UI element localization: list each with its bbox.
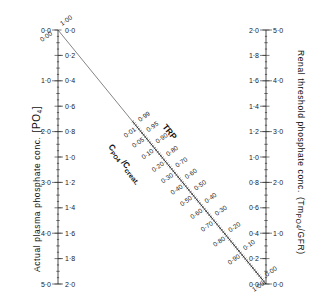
ratio-label: 0·30 [160, 171, 175, 184]
trp-label: 0·99 [136, 110, 151, 123]
right-axis-title-text: Renal threshold phosphate conc. [296, 50, 306, 193]
left-axis-title-unit: [PO [31, 113, 42, 132]
trp-label: 1·00 [59, 13, 74, 26]
right-inner-tick-label: 3·0 [273, 128, 283, 135]
left-inner-tick-label: 1·0 [65, 154, 75, 161]
left-inner-labels: 0·00·20·40·60·81·01·21·41·61·82·0 [58, 27, 75, 288]
trp-label: 0·10 [241, 238, 256, 251]
left-outer-tick-label: 1·0 [41, 77, 51, 84]
right-outer-tick-label: 1·2 [249, 128, 259, 135]
trp-label: 0·50 [193, 178, 208, 191]
left-inner-tick-label: 1·6 [65, 230, 75, 237]
right-axis-title: Renal threshold phosphate conc.(TmPO4/GF… [295, 50, 306, 255]
left-inner-tick-label: 1·4 [65, 204, 75, 211]
right-outer-tick-label: 1·0 [249, 154, 259, 161]
left-inner-tick-label: 1·2 [65, 179, 75, 186]
ratio-title: CPO4/Ccreat. [105, 142, 144, 186]
right-outer-tick-label: 1·4 [249, 103, 259, 110]
left-axis-title: Actual plasma phosphate conc.[PO4] [31, 106, 43, 272]
right-outer-tick-label: 0·8 [249, 179, 259, 186]
left-inner-tick-label: 2·0 [65, 281, 75, 288]
trp-label: 0·20 [227, 220, 242, 233]
right-outer-tick-label: 0·2 [249, 255, 259, 262]
right-outer-tick-label: 0·6 [249, 204, 259, 211]
ratio-label: 0·20 [150, 160, 165, 173]
left-inner-tick-label: 1·8 [65, 255, 75, 262]
right-inner-tick-label: 1·0 [273, 230, 283, 237]
trp-label: 0·60 [183, 167, 198, 180]
trp-label: 0·00 [263, 264, 278, 277]
ratio-label: 0·80 [212, 235, 227, 248]
ratio-label: 0·40 [169, 183, 184, 196]
right-outer-tick-label: 2·0 [249, 27, 259, 34]
ratio-title-sub2: creat. [123, 167, 140, 186]
left-inner-tick-label: 0·6 [65, 103, 75, 110]
left-inner-tick-label: 0·4 [65, 77, 75, 84]
left-inner-tick-label: 0·8 [65, 128, 75, 135]
ratio-label: 0·01 [122, 125, 137, 138]
trp-label: 0·30 [213, 204, 228, 217]
right-outer-labels: 2·01·81·61·41·21·00·80·60·40·20·0 [249, 27, 266, 288]
ratio-label: 0·70 [199, 219, 214, 232]
left-outer-tick-label: 5·0 [41, 281, 51, 288]
ratio-label: 0·50 [178, 194, 193, 207]
ratio-label: 0·90 [226, 252, 241, 265]
ratio-label: 0·60 [189, 207, 204, 220]
nomogram: 0·01·02·03·04·05·0 0·00·20·40·60·81·01·2… [0, 0, 322, 302]
ratio-labels: 0·000·010·050·100·200·300·400·500·600·70… [39, 29, 266, 292]
left-outer-tick-label: 4·0 [41, 230, 51, 237]
right-inner-tick-label: 5·0 [273, 27, 283, 34]
left-axis: 0·01·02·03·04·05·0 0·00·20·40·60·81·01·2… [41, 27, 75, 288]
right-outer-tick-label: 1·8 [249, 52, 259, 59]
ratio-title-sub: PO4 [109, 150, 122, 164]
left-outer-tick-label: 3·0 [41, 179, 51, 186]
right-axis-title-close: /GFR) [296, 229, 306, 255]
right-axis: 2·01·81·61·41·21·00·80·60·40·20·0 5·04·0… [249, 27, 283, 288]
right-axis-title-unit: (Tm [296, 197, 306, 214]
left-inner-tick-label: 0·2 [65, 52, 75, 59]
right-outer-tick-label: 1·6 [249, 77, 259, 84]
right-axis-title-sub: PO4 [295, 214, 302, 229]
trp-label: 0·80 [164, 144, 179, 157]
right-inner-tick-label: 0·0 [273, 281, 283, 288]
left-inner-tick-label: 0·0 [65, 27, 75, 34]
trp-label: 0·40 [203, 191, 218, 204]
right-outer-tick-label: 0·4 [249, 230, 259, 237]
left-axis-title-close: ] [31, 106, 42, 109]
right-inner-tick-label: 4·0 [273, 77, 283, 84]
right-inner-tick-label: 2·0 [273, 179, 283, 186]
left-outer-tick-label: 2·0 [41, 128, 51, 135]
left-axis-title-text: Actual plasma phosphate conc. [32, 136, 42, 272]
trp-labels: 1·000·990·950·900·800·700·600·500·400·30… [59, 13, 279, 277]
ratio-label: 0·05 [131, 136, 146, 149]
trp-label: 0·70 [174, 155, 189, 168]
trp-label: 0·95 [145, 120, 160, 133]
ratio-label: 0·10 [140, 147, 155, 160]
